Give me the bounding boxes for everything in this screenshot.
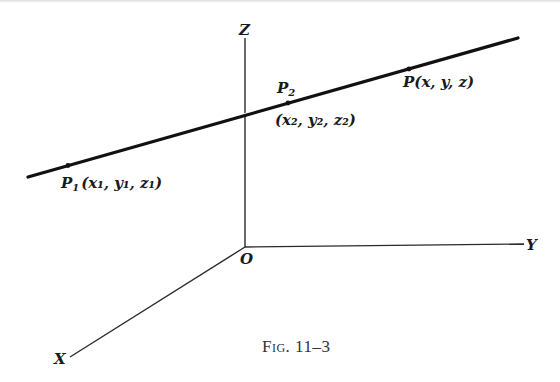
- p1-name: P: [60, 174, 73, 192]
- p1-coords: (x₁, y₁, z₁): [81, 174, 162, 192]
- p-label: P(x, y, z): [402, 73, 474, 91]
- line-p1-p2: [28, 38, 518, 177]
- y-axis-label: Y: [526, 236, 538, 254]
- point-p1: [66, 163, 71, 168]
- p1-subscript: 1: [72, 182, 79, 193]
- z-axis-label: Z: [238, 21, 251, 39]
- x-axis: [70, 247, 245, 357]
- p2-subscript: 2: [287, 87, 295, 98]
- x-axis-label: X: [53, 350, 67, 368]
- p-name: P: [402, 73, 415, 91]
- line-in-3d-diagram: Z Y X O P1(x₁, y₁, z₁) P2 (x₂, y₂, z₂) P…: [0, 0, 560, 382]
- p-coords: (x, y, z): [414, 73, 474, 91]
- origin-label: O: [240, 250, 253, 268]
- p2-label: P2: [276, 79, 295, 98]
- y-axis: [245, 244, 524, 247]
- point-p2: [286, 101, 291, 106]
- p2-coords: (x₂, y₂, z₂): [275, 111, 356, 129]
- figure-caption: Fig. 11–3: [262, 337, 331, 356]
- p1-label: P1(x₁, y₁, z₁): [60, 174, 162, 193]
- point-p: [407, 67, 412, 72]
- p2-name: P: [276, 79, 289, 97]
